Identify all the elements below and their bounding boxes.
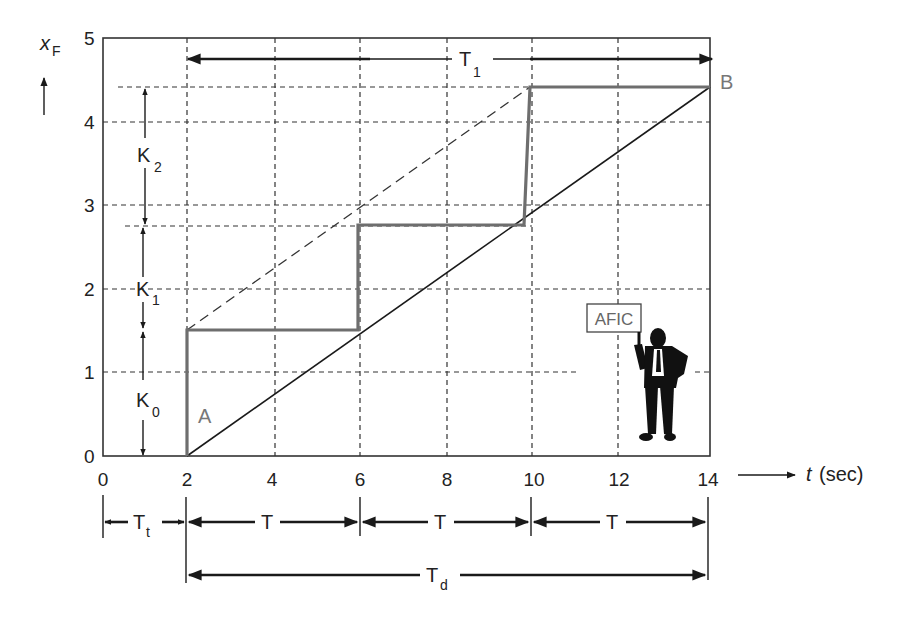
tt-label-sub: t: [146, 524, 150, 540]
plot-frame: [103, 38, 710, 456]
x-tick-14: 14: [697, 469, 719, 490]
x-tick-10: 10: [523, 469, 544, 490]
k2-label: K: [137, 144, 151, 166]
k0-label: K: [136, 389, 150, 411]
point-a-label: A: [198, 405, 212, 427]
k0-label-sub: 0: [152, 404, 160, 420]
x-tick-4: 4: [267, 469, 278, 490]
x-tick-0: 0: [98, 469, 109, 490]
x-axis-label-t: t: [806, 463, 813, 485]
t1-label-sub: 1: [473, 64, 481, 80]
tt-label: T: [133, 511, 145, 533]
y-tick-1: 1: [84, 362, 95, 383]
x-tick-6: 6: [355, 469, 366, 490]
y-tick-labels: 0 1 2 3 4 5: [84, 28, 95, 467]
afic-sign-text: AFIC: [595, 310, 634, 329]
t-interval-1-label: T: [261, 511, 273, 533]
ramp-line-a-b: [187, 87, 710, 456]
y-axis-label: x: [39, 32, 51, 54]
t-interval-2-label: T: [434, 511, 446, 533]
time-intervals: T t T T T T d: [103, 495, 708, 593]
grid-lines: [103, 38, 710, 456]
k2-label-sub: 2: [154, 159, 162, 175]
x-axis-label-unit: (sec): [819, 463, 863, 485]
x-tick-2: 2: [182, 469, 193, 490]
y-tick-0: 0: [84, 446, 95, 467]
t1-label: T: [459, 48, 471, 70]
y-tick-4: 4: [84, 112, 95, 133]
y-axis-label-sub: F: [52, 43, 61, 59]
y-tick-2: 2: [84, 279, 95, 300]
k1-label: K: [136, 278, 150, 300]
y-tick-3: 3: [84, 195, 95, 216]
td-label-sub: d: [440, 577, 448, 593]
point-b-label: B: [720, 71, 733, 93]
x-tick-labels: 0 2 4 6 8 10 12 14: [98, 469, 719, 490]
k1-label-sub: 1: [152, 292, 160, 308]
y-tick-5: 5: [84, 28, 95, 49]
x-tick-12: 12: [608, 469, 629, 490]
afic-person-icon: AFIC: [587, 304, 688, 441]
t1-dimension: T 1: [188, 48, 712, 80]
k-dimensions: K 2 K 1 K 0: [136, 89, 162, 455]
x-tick-8: 8: [442, 469, 453, 490]
td-label: T: [426, 564, 438, 586]
chart: 0 1 2 3 4 5 0 2 4 6 8 10 12 14 x F t (se…: [0, 0, 897, 620]
t-interval-3-label: T: [606, 511, 618, 533]
